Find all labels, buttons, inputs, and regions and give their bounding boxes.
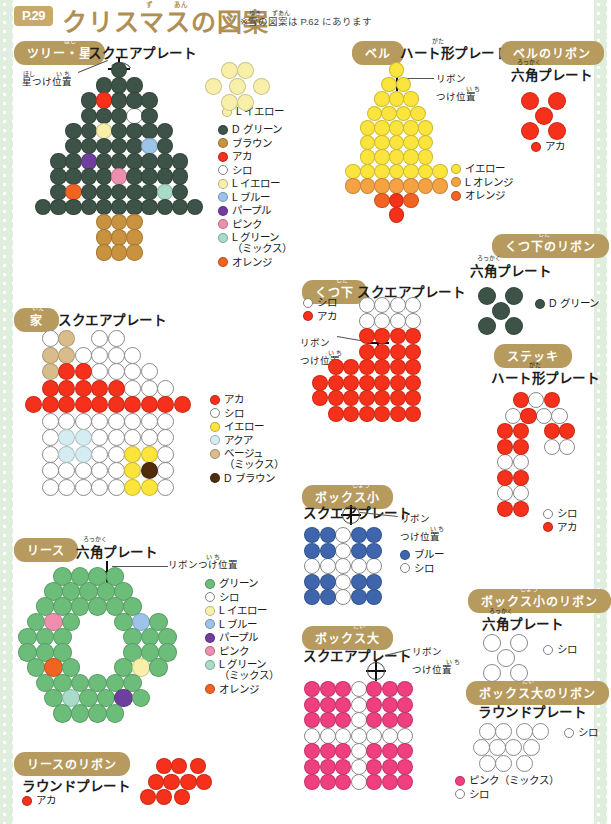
bead: [559, 423, 575, 439]
bead: [389, 62, 405, 78]
bead: [304, 728, 320, 744]
bead: [75, 413, 92, 430]
bead: [96, 123, 112, 139]
bead: [111, 214, 127, 230]
legend-label: オレンジ: [232, 257, 272, 268]
bead: [403, 120, 419, 136]
bead: [71, 704, 90, 723]
legend-swatch-white: [543, 509, 553, 519]
bead: [111, 108, 127, 124]
bead: [75, 347, 92, 364]
legend-label: D グリーン: [549, 298, 599, 309]
bead: [389, 178, 405, 194]
bead: [390, 359, 406, 375]
bead: [42, 446, 59, 463]
bead: [157, 413, 174, 430]
bead: [366, 543, 382, 559]
bead: [50, 153, 66, 169]
bead: [320, 697, 336, 713]
bead: [111, 229, 127, 245]
bead: [405, 344, 421, 360]
bead: [141, 199, 157, 215]
bead: [81, 108, 97, 124]
bead: [405, 406, 421, 422]
bead: [124, 462, 141, 479]
bead: [35, 199, 51, 215]
bead: [521, 122, 539, 140]
bead: [53, 704, 72, 723]
legend-bell: イエローL オレンジオレンジ: [451, 163, 513, 204]
bead: [111, 123, 127, 139]
legend-swatch-orange: [451, 191, 461, 201]
legend-box-small-ribbon: シロ: [543, 644, 577, 658]
bead: [390, 344, 406, 360]
bead: [157, 199, 173, 215]
bead: [65, 184, 81, 200]
bead: [156, 789, 172, 805]
bead: [351, 558, 367, 574]
bead: [343, 375, 359, 391]
bead: [96, 244, 112, 260]
bead: [335, 712, 351, 728]
bead: [304, 774, 320, 790]
plate-type-bell-ribbon: 六角プレート: [511, 64, 592, 84]
bead: [141, 184, 157, 200]
legend-row: オレンジ: [205, 684, 279, 695]
legend-swatch-white: [210, 408, 220, 418]
bead: [81, 123, 97, 139]
bead: [335, 527, 351, 543]
legend-swatch-red: [22, 796, 32, 806]
legend-label: L オレンジ: [465, 177, 513, 188]
bead: [551, 408, 567, 424]
box-small-annotation-1: リボン: [400, 513, 430, 524]
legend-swatch-orange: [218, 257, 228, 267]
bead: [65, 138, 81, 154]
bead: [124, 479, 141, 496]
bead: [157, 462, 174, 479]
plate-type-wreath: 六角プレート: [76, 541, 157, 561]
bead: [366, 774, 382, 790]
legend-row: ピンク: [205, 646, 279, 657]
bead: [180, 774, 196, 790]
bead: [141, 396, 158, 413]
bead: [360, 178, 376, 194]
bead: [418, 135, 434, 151]
legend-swatch-purple: [205, 633, 215, 643]
bead: [516, 755, 533, 772]
bead: [141, 429, 158, 446]
bead: [312, 375, 328, 391]
bead: [497, 649, 515, 667]
bead: [75, 479, 92, 496]
bead: [390, 375, 406, 391]
bead: [359, 406, 375, 422]
bead: [81, 92, 97, 108]
plate-type-sock-ribbon: 六角プレート: [470, 260, 551, 280]
legend-label-secondary: （ミックス）: [232, 243, 292, 254]
bead: [172, 184, 188, 200]
legend-row: L ブルー: [218, 192, 292, 203]
legend-house: アカシロイエローアクアベージュ（ミックス）D ブラウン: [210, 394, 284, 486]
bead: [157, 380, 174, 397]
legend-row: ブルー: [400, 549, 444, 560]
bead: [58, 330, 75, 347]
bead: [108, 413, 125, 430]
legend-swatch-yellow: [451, 164, 461, 174]
legend-swatch-blue: [400, 550, 410, 560]
bead: [497, 439, 513, 455]
bead: [88, 597, 107, 616]
bead: [366, 589, 382, 605]
bead: [479, 755, 496, 772]
bead: [96, 77, 112, 93]
bead: [75, 446, 92, 463]
bead: [403, 91, 419, 107]
legend-label: ブルー: [414, 549, 444, 560]
legend-label: シロ: [469, 789, 489, 800]
legend-label: アカ: [224, 394, 244, 405]
bead: [75, 462, 92, 479]
legend-row: ピンク: [218, 219, 292, 230]
box-small-annotation-2: つけ位置: [400, 531, 440, 542]
legend-label: オレンジ: [219, 684, 259, 695]
bead: [351, 543, 367, 559]
bead: [523, 739, 540, 756]
plate-type-box-small-ribbon: 六角プレート: [482, 613, 563, 633]
